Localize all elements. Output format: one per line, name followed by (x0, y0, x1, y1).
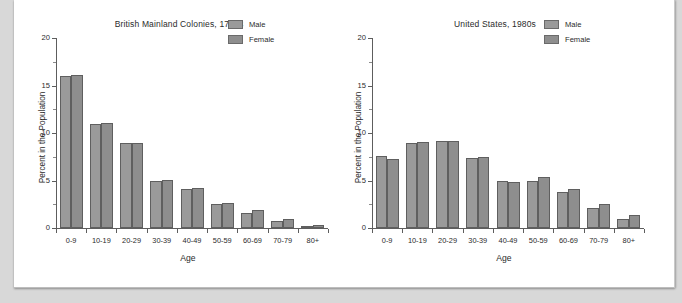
bar-female-50-59 (222, 203, 234, 228)
y-axis-tick-label: 10 (346, 128, 366, 137)
legend-swatch-male-icon (228, 20, 243, 29)
bar-female-10-19 (101, 123, 113, 228)
page-root: British Mainland Colonies, 1760s Percent… (0, 0, 682, 303)
x-axis-tick (553, 229, 554, 233)
y-axis-tick-label: 20 (30, 33, 50, 42)
x-axis-tick (177, 229, 178, 233)
x-axis-tick (147, 229, 148, 233)
x-axis-tick (207, 229, 208, 233)
x-axis-tick (523, 229, 524, 233)
x-axis-label: Age (48, 253, 328, 263)
x-axis-tick (56, 229, 57, 233)
bar-female-50-59 (538, 177, 550, 228)
bar-male-0-9 (376, 156, 388, 228)
y-axis-tick-major (52, 38, 56, 39)
y-axis-tick-minor (369, 204, 372, 205)
x-axis-tick (237, 229, 238, 233)
bar-male-0-9 (60, 76, 72, 228)
x-axis-tick (432, 229, 433, 233)
chart-panel-british-colonies: British Mainland Colonies, 1760s Percent… (14, 0, 344, 287)
x-axis-line (56, 228, 328, 229)
bar-male-50-59 (527, 181, 539, 229)
y-axis-tick-minor (53, 204, 56, 205)
x-axis-tick (116, 229, 117, 233)
bar-female-40-49 (508, 182, 520, 228)
legend-swatch-female-icon (544, 35, 559, 44)
y-axis-tick-minor (53, 62, 56, 63)
bar-female-10-19 (417, 142, 429, 228)
y-axis-tick-label: 0 (30, 223, 50, 232)
x-axis-tick (463, 229, 464, 233)
bar-male-80+ (301, 226, 313, 228)
x-axis-tick (268, 229, 269, 233)
bar-female-80+ (629, 215, 641, 228)
bar-female-30-39 (478, 157, 490, 228)
bar-male-80+ (617, 219, 629, 228)
bar-female-30-39 (162, 180, 174, 228)
legend-label-male: Male (249, 20, 265, 29)
y-axis-tick-label: 10 (30, 128, 50, 137)
y-axis-tick-minor (369, 62, 372, 63)
y-axis-tick-label: 5 (30, 176, 50, 185)
y-axis-tick-label: 5 (346, 176, 366, 185)
bar-female-60-69 (252, 210, 264, 228)
legend: Male Female (228, 18, 318, 48)
legend-swatch-female-icon (228, 35, 243, 44)
plot-area: 051015200-910-1920-2930-3940-4950-5960-6… (56, 30, 328, 236)
bar-female-80+ (313, 225, 325, 228)
bar-female-70-79 (283, 219, 295, 229)
x-axis-line (372, 228, 644, 229)
figure-paper: British Mainland Colonies, 1760s Percent… (14, 0, 675, 288)
x-axis-tick (493, 229, 494, 233)
x-axis-tick-label: 80+ (293, 236, 333, 245)
y-axis-tick-major (52, 86, 56, 87)
y-axis-tick-minor (369, 157, 372, 158)
bar-female-20-29 (448, 141, 460, 228)
plot-area: 051015200-910-1920-2930-3940-4950-5960-6… (372, 30, 644, 236)
legend-item-female: Female (228, 33, 318, 46)
legend-item-female: Female (544, 33, 634, 46)
bar-male-60-69 (241, 213, 253, 228)
legend-label-male: Male (565, 20, 581, 29)
y-axis-tick-major (52, 181, 56, 182)
bar-male-40-49 (497, 181, 509, 229)
y-axis-tick-major (52, 133, 56, 134)
legend-label-female: Female (249, 35, 274, 44)
bar-female-0-9 (387, 159, 399, 228)
legend-label-female: Female (565, 35, 590, 44)
bar-female-20-29 (132, 143, 144, 229)
bar-male-70-79 (587, 208, 599, 228)
x-axis-tick (584, 229, 585, 233)
bar-male-20-29 (120, 143, 132, 229)
y-axis-line (56, 38, 57, 228)
bar-male-10-19 (406, 143, 418, 228)
x-axis-tick-label: 80+ (609, 236, 649, 245)
x-axis-tick (86, 229, 87, 233)
y-axis-tick-label: 15 (346, 81, 366, 90)
bar-male-20-29 (436, 141, 448, 228)
legend-item-male: Male (228, 18, 318, 31)
x-axis-tick (644, 229, 645, 233)
bar-male-60-69 (557, 192, 569, 228)
bar-female-60-69 (568, 189, 580, 228)
bar-male-70-79 (271, 221, 283, 228)
y-axis-tick-major (368, 86, 372, 87)
x-axis-label: Age (364, 253, 644, 263)
bar-female-40-49 (192, 188, 204, 228)
y-axis-tick-major (368, 181, 372, 182)
y-axis-tick-major (368, 38, 372, 39)
y-axis-tick-minor (53, 109, 56, 110)
bar-male-10-19 (90, 124, 102, 229)
legend: Male Female (544, 18, 634, 48)
x-axis-tick (328, 229, 329, 233)
y-axis-tick-label: 0 (346, 223, 366, 232)
x-axis-tick (614, 229, 615, 233)
x-axis-tick (298, 229, 299, 233)
y-axis-tick-major (368, 133, 372, 134)
legend-swatch-male-icon (544, 20, 559, 29)
x-axis-tick (402, 229, 403, 233)
y-axis-tick-label: 20 (346, 33, 366, 42)
y-axis-tick-minor (53, 157, 56, 158)
y-axis-tick-minor (369, 109, 372, 110)
bar-male-30-39 (466, 158, 478, 228)
